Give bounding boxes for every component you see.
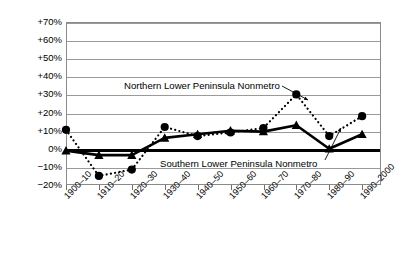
- data-point-circle: [62, 126, 70, 134]
- data-point-circle: [325, 132, 333, 140]
- data-point-circle: [358, 112, 366, 120]
- annotation-northern-label: Northern Lower Peninsula Nonmetro: [124, 80, 280, 91]
- data-point-circle: [292, 90, 300, 98]
- series-line-triangle: [66, 125, 362, 155]
- data-point-triangle: [358, 130, 367, 138]
- series-layer: [0, 0, 416, 253]
- data-point-circle: [128, 166, 136, 174]
- annotation-southern-label: Southern Lower Peninsula Nonmetro: [160, 158, 317, 169]
- data-point-circle: [161, 123, 169, 131]
- data-point-circle: [95, 172, 103, 180]
- chart-container: +70% +60% +50% +40% +30% +20% +10% 0% −1…: [0, 0, 416, 253]
